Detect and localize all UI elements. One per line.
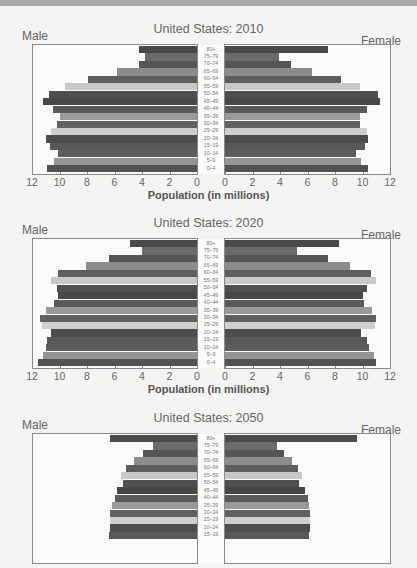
- chart-title: United States: 2050: [0, 411, 417, 425]
- tick-label: 10: [357, 370, 369, 382]
- age-label: 65–69: [198, 262, 224, 269]
- age-label: 75–79: [198, 247, 224, 254]
- male-bar: [134, 457, 197, 464]
- chart-title: United States: 2020: [0, 216, 417, 230]
- tick-label: 6: [112, 370, 118, 382]
- female-bar: [225, 344, 369, 351]
- female-bar: [225, 352, 374, 359]
- age-label: 30–34: [198, 120, 224, 127]
- tick-mark: [225, 172, 226, 175]
- female-bar: [225, 292, 363, 299]
- female-bar: [225, 457, 292, 464]
- age-label: 70–74: [198, 449, 224, 456]
- age-label: 30–34: [198, 509, 224, 516]
- female-bar: [225, 83, 360, 90]
- female-bar: [225, 113, 360, 120]
- male-bar: [47, 165, 197, 172]
- male-bar: [117, 487, 197, 494]
- tick-label: 4: [277, 370, 283, 382]
- female-bar: [225, 106, 367, 113]
- age-label: 20–24: [198, 329, 224, 336]
- male-bar: [51, 277, 197, 284]
- female-bar: [225, 165, 368, 172]
- male-bar: [109, 532, 197, 539]
- male-bar: [65, 83, 197, 90]
- male-bar: [110, 517, 197, 524]
- female-bar: [225, 121, 360, 128]
- age-label: 15–19: [198, 531, 224, 538]
- x-axis-label: Population (in millions): [0, 383, 417, 395]
- female-bar: [225, 329, 361, 336]
- tick-label: 2: [250, 370, 256, 382]
- age-label: 60–64: [198, 464, 224, 471]
- age-label: 80+: [198, 46, 224, 53]
- female-bar: [225, 91, 378, 98]
- male-bar: [51, 329, 197, 336]
- female-bar: [225, 300, 364, 307]
- male-bar: [60, 113, 198, 120]
- tick-label: 10: [357, 176, 369, 188]
- female-bar: [225, 322, 375, 329]
- tick-mark: [308, 172, 309, 175]
- age-label: 35–39: [198, 307, 224, 314]
- male-bar: [143, 450, 197, 457]
- tick-mark: [225, 366, 226, 369]
- age-group-labels: 80+75–7970–7465–6960–6455–5950–5445–4940…: [198, 434, 224, 563]
- tick-mark: [32, 172, 33, 175]
- tick-mark: [253, 366, 254, 369]
- tick-label: 6: [112, 176, 118, 188]
- male-bar: [54, 300, 197, 307]
- male-bar: [53, 106, 197, 113]
- age-label: 20–24: [198, 524, 224, 531]
- female-bar: [225, 76, 341, 83]
- male-bar: [40, 315, 197, 322]
- tick-label: 12: [26, 370, 38, 382]
- age-label: 0–4: [198, 165, 224, 172]
- male-bar: [38, 359, 198, 366]
- tick-mark: [87, 172, 88, 175]
- female-bar: [225, 472, 302, 479]
- age-label: 25–29: [198, 127, 224, 134]
- age-label: 70–74: [198, 254, 224, 261]
- male-bar: [139, 61, 197, 68]
- female-bar: [225, 240, 339, 247]
- tick-label: 2: [250, 176, 256, 188]
- male-bar: [46, 344, 197, 351]
- tick-mark: [253, 172, 254, 175]
- tick-label: 4: [139, 370, 145, 382]
- female-bar: [225, 98, 380, 105]
- male-bar: [126, 465, 198, 472]
- tick-mark: [142, 366, 143, 369]
- male-bar: [47, 337, 197, 344]
- age-label: 0–4: [198, 359, 224, 366]
- tick-label: 2: [167, 176, 173, 188]
- female-bar: [225, 270, 371, 277]
- male-bar: [123, 480, 197, 487]
- tick-mark: [87, 366, 88, 369]
- age-label: 50–54: [198, 479, 224, 486]
- female-bar: [225, 517, 310, 524]
- male-bar: [49, 91, 198, 98]
- age-label: 40–44: [198, 494, 224, 501]
- age-label: 65–69: [198, 68, 224, 75]
- male-label: Male: [22, 418, 48, 432]
- age-label: 55–59: [198, 277, 224, 284]
- tick-mark: [390, 366, 391, 369]
- pyramid-chart: United States: 2020MaleFemale80+75–7970–…: [0, 216, 417, 416]
- x-axis-label: Population (in millions): [0, 189, 417, 201]
- female-bar: [225, 480, 299, 487]
- male-bar: [110, 435, 197, 442]
- age-label: 30–34: [198, 314, 224, 321]
- age-label: 25–29: [198, 321, 224, 328]
- age-label: 55–59: [198, 83, 224, 90]
- male-bar: [112, 502, 197, 509]
- male-bar: [110, 510, 197, 517]
- age-label: 45–49: [198, 98, 224, 105]
- tick-label: 6: [305, 370, 311, 382]
- tick-label: 2: [167, 370, 173, 382]
- tick-mark: [170, 366, 171, 369]
- tick-mark: [142, 172, 143, 175]
- tick-label: 8: [84, 176, 90, 188]
- top-border-bar: [0, 0, 417, 6]
- age-group-labels: 80+75–7970–7465–6960–6455–5950–5445–4940…: [198, 239, 224, 368]
